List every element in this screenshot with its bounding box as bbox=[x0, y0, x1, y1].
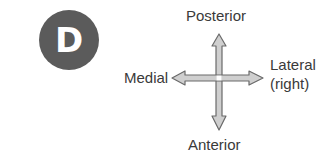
four-way-arrow-icon bbox=[0, 0, 334, 162]
